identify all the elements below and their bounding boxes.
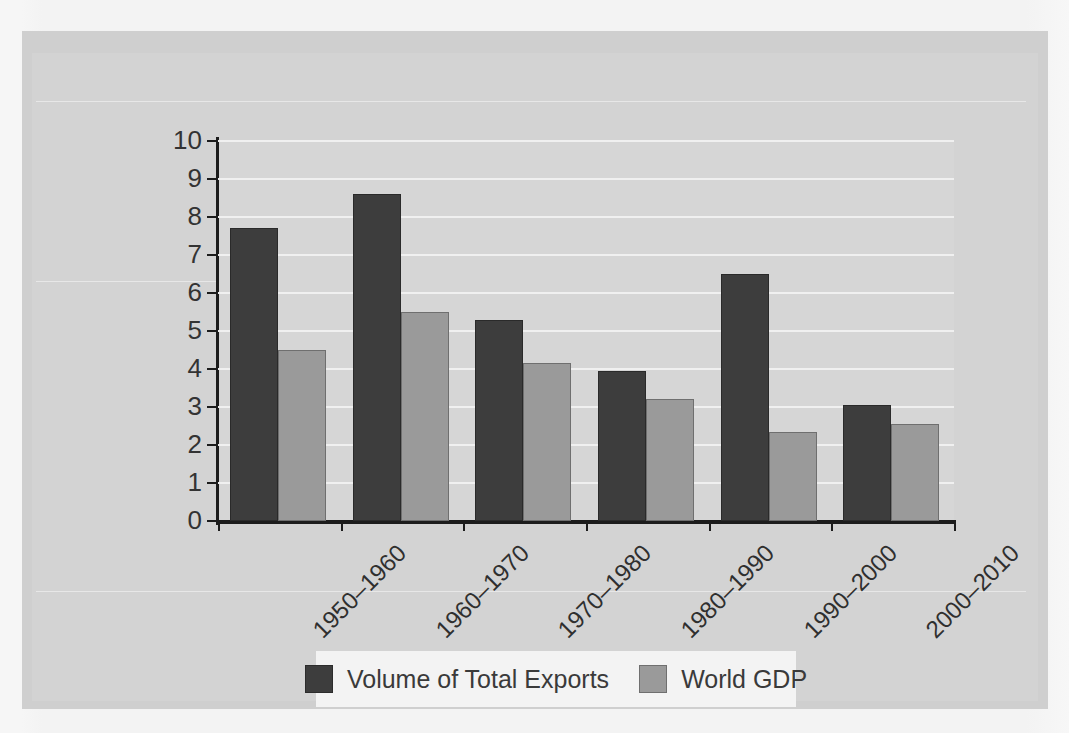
x-axis-tick: [341, 520, 343, 531]
gridline: [218, 368, 954, 370]
y-axis-tick: [207, 140, 217, 142]
y-axis-tick: [207, 254, 217, 256]
y-axis-tick-labels: 012345678910: [142, 31, 202, 709]
y-axis-tick-label: 7: [156, 241, 202, 267]
gray-swatch: [639, 665, 667, 693]
scanned-page: 012345678910 1950–19601960–19701970–1980…: [0, 0, 1069, 733]
y-axis-tick-label: 9: [156, 165, 202, 191]
y-axis-tick-label: 0: [156, 507, 202, 533]
chart-figure: 012345678910 1950–19601960–19701970–1980…: [22, 31, 1048, 709]
x-axis-tick: [831, 520, 833, 531]
y-axis-tick-label: 2: [156, 431, 202, 457]
y-axis-tick: [207, 292, 217, 294]
x-axis-tick: [463, 520, 465, 531]
y-axis-tick: [207, 444, 217, 446]
bar: [769, 432, 817, 521]
bar: [401, 312, 449, 521]
dark-swatch: [305, 665, 333, 693]
bar: [475, 320, 523, 521]
legend-item: Volume of Total Exports: [305, 665, 609, 694]
y-axis-tick-label: 8: [156, 203, 202, 229]
y-axis-tick: [207, 406, 217, 408]
x-axis-tick: [218, 520, 220, 531]
legend-item-label: World GDP: [681, 665, 807, 694]
y-axis-tick: [207, 520, 217, 522]
y-axis-tick-label: 10: [156, 127, 202, 153]
gridline: [218, 330, 954, 332]
chart-legend: Volume of Total ExportsWorld GDP: [316, 651, 796, 707]
x-axis-tick: [954, 520, 956, 531]
y-axis-tick: [207, 178, 217, 180]
bar: [230, 228, 278, 521]
bar: [523, 363, 571, 521]
gridline: [218, 178, 954, 180]
gridline: [218, 254, 954, 256]
x-axis-tick: [709, 520, 711, 531]
legend-item: World GDP: [639, 665, 807, 694]
x-axis-tick: [586, 520, 588, 531]
y-axis-tick-label: 5: [156, 317, 202, 343]
bar: [353, 194, 401, 521]
bar: [891, 424, 939, 521]
gridline: [218, 216, 954, 218]
y-axis-tick: [207, 216, 217, 218]
bar: [278, 350, 326, 521]
gridline: [218, 140, 954, 142]
y-axis-tick: [207, 482, 217, 484]
y-axis-tick-label: 3: [156, 393, 202, 419]
y-axis-tick: [207, 368, 217, 370]
gridline: [218, 292, 954, 294]
bar: [598, 371, 646, 521]
legend-item-label: Volume of Total Exports: [347, 665, 609, 694]
y-axis-tick-label: 1: [156, 469, 202, 495]
bar: [646, 399, 694, 521]
y-axis-tick-label: 6: [156, 279, 202, 305]
y-axis-tick-label: 4: [156, 355, 202, 381]
y-axis-tick: [207, 330, 217, 332]
bar: [721, 274, 769, 521]
bar: [843, 405, 891, 521]
